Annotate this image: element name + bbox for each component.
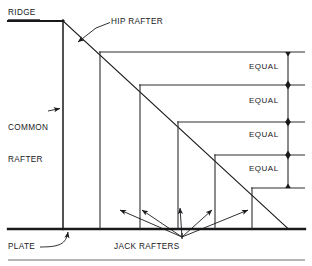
dimension-tick-3a [285,118,291,122]
dimension-tick-2b [285,85,291,89]
label-equal-4: EQUAL [249,164,279,175]
dimension-tick-4b [285,155,291,159]
label-common-rafter-line2: RAFTER [8,155,48,166]
jack-rafters-leader-4 [182,210,212,237]
hip-roof-framing-diagram: RIDGE HIP RAFTER COMMON RAFTER PLATE JAC… [0,0,312,266]
dimension-tick-2a [285,81,291,85]
label-equal-1: EQUAL [249,62,279,73]
label-common-rafter-line1: COMMON [8,123,48,134]
plate-leader [40,232,68,247]
label-plate: PLATE [8,242,35,253]
dimension-tick-5 [285,184,291,188]
jack-rafters-leader-group [120,208,248,239]
equal-dimension-group [285,52,291,188]
common-rafter-leader [48,109,60,112]
dimension-tick-3b [285,122,291,126]
label-equal-2: EQUAL [249,96,279,107]
dimension-tick-1 [285,52,291,56]
dimension-tick-4a [285,151,291,155]
label-jack-rafters: JACK RAFTERS [114,242,180,253]
label-hip-rafter: HIP RAFTER [111,17,163,28]
jack-rafters-leader-1 [120,210,182,237]
jack-rafters-leader-3 [180,208,182,237]
jack-rafters-leader-2 [142,210,182,237]
label-common-rafter: COMMON RAFTER [8,102,48,186]
label-ridge: RIDGE [8,8,36,19]
label-equal-3: EQUAL [249,130,279,141]
